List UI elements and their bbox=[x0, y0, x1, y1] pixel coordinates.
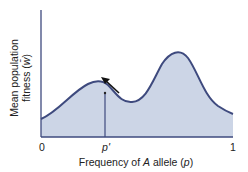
fitness-landscape-plot bbox=[0, 0, 248, 172]
x-tick-0: 0 bbox=[39, 141, 45, 153]
fitness-area-fill bbox=[41, 52, 233, 137]
y-axis-label-line2: fitness (w̄) bbox=[20, 39, 32, 117]
y-axis-label-line1: Mean population bbox=[8, 39, 20, 117]
x-tick-1: 1 bbox=[230, 141, 236, 153]
p-prime-point bbox=[104, 92, 106, 94]
y-axis-label: Mean population fitness (w̄) bbox=[4, 23, 36, 133]
x-axis-label: Frequency of A allele (p) bbox=[56, 156, 216, 168]
x-tick-p-prime: p' bbox=[102, 141, 110, 153]
